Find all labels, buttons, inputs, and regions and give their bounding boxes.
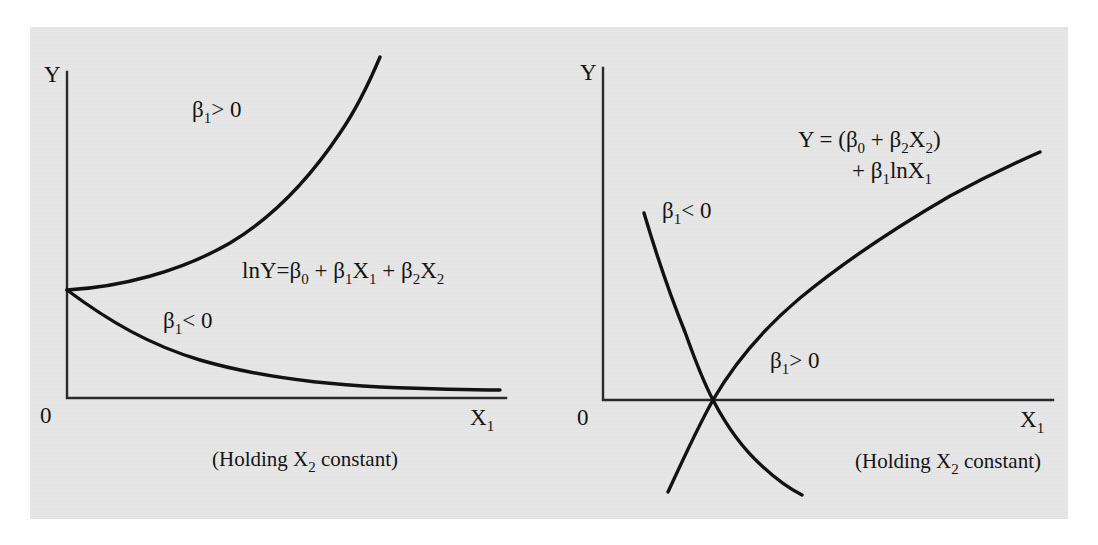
- right-equation-line2-part-c-sub: 1: [924, 171, 932, 187]
- left-equation-part-b: β: [289, 258, 301, 283]
- right-panel-x-axis-label-base: X: [1020, 407, 1037, 432]
- left-panel-note-beta-positive: β1> 0: [192, 97, 241, 126]
- left-panel-note-beta-negative: β1< 0: [163, 308, 212, 337]
- right-panel-x-axis-label-sub: 1: [1037, 420, 1045, 436]
- right-equation-part-e: X: [909, 127, 926, 152]
- left-panel-equation: lnY=β0 + β1X1 + β2X2: [242, 258, 444, 287]
- right-panel-note-beta-negative: β1< 0: [662, 198, 711, 227]
- left-panel-curve-beta-positive: [67, 57, 380, 290]
- right-equation-part-c: +: [865, 127, 889, 152]
- left-panel-note-negative-beta: β: [163, 308, 175, 333]
- right-panel-equation-line1: Y = (β0 + β2X2): [798, 127, 941, 156]
- right-panel-note-negative-beta: β: [662, 198, 674, 223]
- right-equation-line2-part-b-sub: 1: [882, 171, 890, 187]
- right-panel-origin-label: 0: [577, 405, 589, 430]
- left-panel-x-axis-label-sub: 1: [487, 418, 495, 434]
- left-panel-x-axis-label-base: X: [470, 405, 487, 430]
- left-panel-axes: [67, 72, 506, 398]
- right-panel-equation-line2: + β1lnX1: [852, 158, 932, 187]
- right-caption-sub: 2: [951, 461, 959, 477]
- figure-svg: Y 0 X1 β1> 0 β1< 0 lnY=β0 + β1X1 + β2X2 …: [0, 0, 1098, 545]
- left-equation-part-d: β: [333, 258, 345, 283]
- right-equation-part-d-sub: 2: [901, 140, 909, 156]
- right-panel-note-positive-sub: 1: [782, 361, 790, 377]
- right-panel-y-axis-label: Y: [580, 60, 597, 85]
- right-panel-note-negative-sub: 1: [674, 211, 682, 227]
- right-equation-part-e-sub: 2: [925, 140, 933, 156]
- right-panel-note-positive-relation: > 0: [789, 348, 819, 373]
- left-caption-prefix: (Holding X: [212, 447, 308, 471]
- left-equation-part-a: lnY=: [242, 258, 289, 283]
- right-panel-note-positive-beta: β: [770, 348, 782, 373]
- right-equation-part-f: ): [933, 127, 941, 152]
- left-panel-x-axis-label: X1: [470, 405, 494, 434]
- left-panel-curve-beta-negative: [67, 290, 500, 390]
- right-panel-curve-beta-positive: [668, 152, 1040, 492]
- right-equation-line2-part-b: β: [871, 158, 883, 183]
- right-equation-part-b: β: [846, 127, 858, 152]
- left-equation-part-g-sub: 2: [413, 271, 421, 287]
- right-panel-note-beta-positive: β1> 0: [770, 348, 819, 377]
- left-caption-sub: 2: [308, 459, 316, 475]
- right-caption-suffix: constant): [959, 449, 1041, 473]
- right-equation-line2-part-a: +: [852, 158, 871, 183]
- right-equation-line2-part-c: lnX: [890, 158, 925, 183]
- right-equation-part-d: β: [890, 127, 902, 152]
- right-panel-caption: (Holding X2 constant): [855, 449, 1041, 477]
- right-panel-axes: [603, 68, 1053, 400]
- right-caption-prefix: (Holding X: [855, 449, 951, 473]
- right-equation-part-a: Y = (: [798, 127, 846, 152]
- left-panel-note-positive-relation: > 0: [211, 97, 241, 122]
- left-panel-note-negative-relation: < 0: [182, 308, 212, 333]
- left-equation-part-d-sub: 1: [345, 271, 353, 287]
- figure-root: Y 0 X1 β1> 0 β1< 0 lnY=β0 + β1X1 + β2X2 …: [0, 0, 1098, 545]
- left-panel: Y 0 X1 β1> 0 β1< 0 lnY=β0 + β1X1 + β2X2 …: [40, 57, 506, 475]
- right-panel-note-negative-relation: < 0: [681, 198, 711, 223]
- left-caption-suffix: constant): [316, 447, 398, 471]
- left-panel-y-axis-label: Y: [44, 62, 61, 87]
- left-equation-part-c: +: [309, 258, 333, 283]
- right-equation-part-b-sub: 0: [858, 140, 866, 156]
- left-equation-part-f: +: [377, 258, 401, 283]
- left-equation-part-e: X: [352, 258, 369, 283]
- right-panel-x-axis-label: X1: [1020, 407, 1044, 436]
- left-equation-part-h-sub: 2: [437, 271, 445, 287]
- left-panel-caption: (Holding X2 constant): [212, 447, 398, 475]
- left-equation-part-b-sub: 0: [301, 271, 309, 287]
- left-panel-note-positive-sub: 1: [204, 110, 212, 126]
- right-panel: Y 0 X1 β1< 0 β1> 0 Y = (β0 + β2X2) + β1l…: [577, 60, 1053, 495]
- left-equation-part-h: X: [420, 258, 437, 283]
- left-panel-note-positive-beta: β: [192, 97, 204, 122]
- left-equation-part-g: β: [401, 258, 413, 283]
- left-panel-note-negative-sub: 1: [175, 321, 183, 337]
- left-equation-part-e-sub: 1: [369, 271, 377, 287]
- left-panel-origin-label: 0: [40, 403, 52, 428]
